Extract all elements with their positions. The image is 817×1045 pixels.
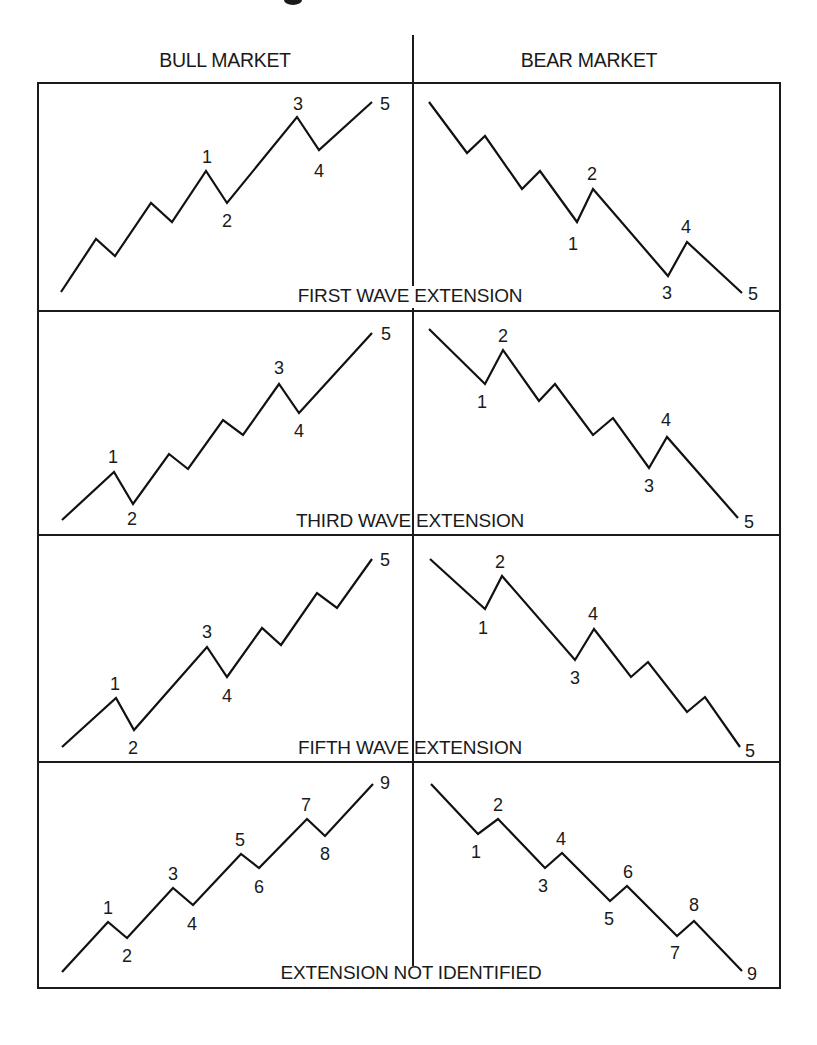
bear-market-wave: 12345 (429, 102, 758, 304)
bull-wave-line (62, 559, 372, 747)
wave-count-label: 1 (108, 447, 118, 467)
bear-market-wave: 12345 (429, 326, 754, 532)
bull-market-wave: 12345 (61, 94, 390, 292)
wave-panel: EXTENSION NOT IDENTIFIED1234567891234567… (62, 773, 757, 984)
wave-count-label: 2 (498, 326, 508, 346)
bear-wave-line (429, 102, 742, 293)
wave-count-label: 2 (587, 164, 597, 184)
wave-count-label: 9 (747, 964, 757, 984)
wave-count-label: 1 (103, 898, 113, 918)
bull-market-wave: 123456789 (62, 773, 390, 972)
wave-count-label: 4 (556, 829, 566, 849)
wave-count-label: 4 (681, 217, 691, 237)
wave-count-label: 4 (314, 161, 324, 181)
wave-count-label: 7 (670, 943, 680, 963)
wave-panel: FIFTH WAVE EXTENSION1234512345 (62, 550, 755, 761)
wave-count-label: 4 (294, 421, 304, 441)
wave-count-label: 1 (478, 618, 488, 638)
wave-count-label: 5 (744, 512, 754, 532)
wave-count-label: 3 (168, 864, 178, 884)
bear-market-wave: 123456789 (431, 784, 757, 984)
panel-caption: EXTENSION NOT IDENTIFIED (281, 962, 542, 983)
wave-count-label: 1 (471, 842, 481, 862)
wave-count-label: 3 (662, 283, 672, 303)
wave-count-label: 8 (320, 844, 330, 864)
wave-count-label: 2 (127, 509, 137, 529)
wave-count-label: 5 (380, 94, 390, 114)
wave-count-label: 5 (380, 550, 390, 570)
wave-count-label: 2 (122, 946, 132, 966)
wave-count-label: 9 (380, 773, 390, 793)
bear-market-header: BEAR MARKET (521, 49, 658, 71)
wave-count-label: 6 (254, 877, 264, 897)
wave-count-label: 1 (110, 674, 120, 694)
wave-count-label: 8 (689, 895, 699, 915)
wave-count-label: 2 (495, 552, 505, 572)
panel-caption: FIFTH WAVE EXTENSION (298, 737, 522, 758)
bear-wave-line (429, 329, 738, 518)
wave-count-label: 7 (301, 795, 311, 815)
bear-wave-line (431, 784, 742, 971)
wave-count-label: 6 (623, 862, 633, 882)
wave-count-label: 3 (644, 476, 654, 496)
wave-panels: FIRST WAVE EXTENSION1234512345THIRD WAVE… (61, 94, 758, 984)
bear-wave-line (430, 559, 740, 747)
wave-count-label: 3 (274, 358, 284, 378)
wave-count-label: 2 (128, 738, 138, 758)
bull-wave-line (62, 784, 373, 972)
wave-count-label: 1 (568, 234, 578, 254)
wave-count-label: 2 (493, 795, 503, 815)
bull-wave-line (62, 333, 372, 520)
wave-count-label: 2 (222, 211, 232, 231)
wave-panel: THIRD WAVE EXTENSION1234512345 (62, 324, 754, 532)
wave-count-label: 1 (202, 147, 212, 167)
panel-caption: FIRST WAVE EXTENSION (298, 285, 523, 306)
cropped-title-fragment (284, 0, 302, 5)
bear-market-wave: 12345 (430, 552, 755, 761)
wave-panel: FIRST WAVE EXTENSION1234512345 (61, 94, 758, 306)
bull-market-wave: 12345 (62, 324, 391, 529)
wave-count-label: 3 (293, 94, 303, 114)
wave-count-label: 5 (604, 909, 614, 929)
bull-wave-line (61, 102, 372, 292)
wave-count-label: 5 (235, 830, 245, 850)
wave-count-label: 1 (477, 392, 487, 412)
wave-count-label: 3 (538, 876, 548, 896)
wave-count-label: 3 (202, 622, 212, 642)
wave-count-label: 4 (187, 914, 197, 934)
wave-count-label: 4 (222, 686, 232, 706)
wave-count-label: 5 (748, 284, 758, 304)
wave-count-label: 3 (570, 668, 580, 688)
wave-count-label: 5 (745, 741, 755, 761)
bull-market-wave: 12345 (62, 550, 390, 758)
panel-caption: THIRD WAVE EXTENSION (296, 510, 524, 531)
elliott-wave-extension-diagram: BULL MARKET BEAR MARKET FIRST WAVE EXTEN… (0, 0, 817, 1045)
bull-market-header: BULL MARKET (159, 49, 291, 71)
wave-count-label: 4 (588, 604, 598, 624)
wave-count-label: 4 (661, 410, 671, 430)
wave-count-label: 5 (381, 324, 391, 344)
